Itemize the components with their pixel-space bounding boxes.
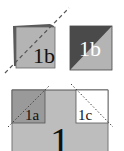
bottom-tile: 1a 1c 1: [8, 84, 113, 151]
label-1c: 1c: [78, 107, 93, 123]
label-1a: 1a: [25, 107, 40, 123]
diagram-svg: 1b 1b 1a 1c 1: [0, 0, 124, 151]
top-right-tile: 1b: [70, 26, 112, 70]
label-1: 1: [50, 119, 70, 151]
tile-label: 1b: [33, 43, 55, 68]
tile-label: 1b: [79, 36, 101, 61]
diagram-canvas: 1b 1b 1a 1c 1: [0, 0, 124, 151]
top-left-tile: 1b: [5, 8, 69, 73]
